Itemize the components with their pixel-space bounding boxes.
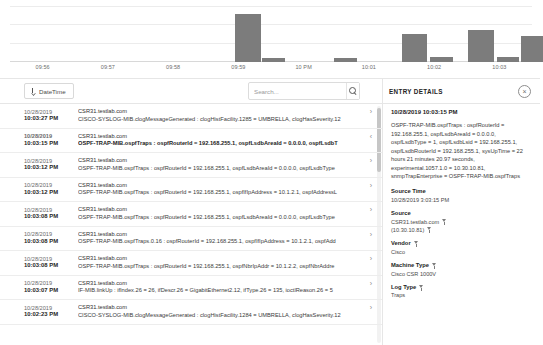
log-row-timestamp: 10/28/201910:03:12 PM bbox=[24, 159, 74, 172]
x-axis-tick-label: 09:59 bbox=[231, 64, 245, 70]
entry-field-value: Cisco bbox=[391, 248, 530, 256]
entry-field: Source Time10/28/2019 3:03:15 PM bbox=[391, 188, 530, 204]
entry-field: VendorCisco bbox=[391, 240, 530, 256]
log-row-message: OSPF-TRAP-MIB.ospfTraps : ospfRouterId =… bbox=[78, 166, 382, 172]
log-row[interactable]: 10/28/201910:03:08 PMCSR31.testlab.comOS… bbox=[0, 202, 382, 227]
chart-bar[interactable] bbox=[468, 30, 494, 62]
entry-field-list: Source Time10/28/2019 3:03:15 PMSourceCS… bbox=[391, 188, 530, 300]
log-row-content: CSR31.testlab.comOSPF-TRAP-MIB.ospfTraps… bbox=[74, 183, 382, 196]
log-row[interactable]: 10/28/201910:03:27 PMCSR31.testlab.comCI… bbox=[0, 104, 382, 129]
log-row-timestamp: 10/28/201910:03:15 PM bbox=[24, 134, 74, 147]
log-row-source: CSR31.testlab.com bbox=[78, 281, 382, 287]
filter-icon[interactable] bbox=[427, 227, 432, 233]
entry-field: Log TypeTraps bbox=[391, 284, 530, 300]
entry-field-value: Cisco CSR 1000V bbox=[391, 270, 530, 278]
x-axis-tick-label: 09:56 bbox=[35, 64, 49, 70]
filter-icon[interactable] bbox=[442, 219, 447, 225]
entry-details-title: ENTRY DETAILS bbox=[389, 88, 443, 95]
toolbar: DateTime ENTRY DETAILS × bbox=[0, 78, 540, 104]
log-row-message: OSPF-TRAP-MIB.ospfTraps.0.16 : ospfRoute… bbox=[78, 239, 382, 245]
log-row[interactable]: 10/28/201910:03:07 PMCSR31.testlab.comIF… bbox=[0, 276, 382, 301]
chart-bar[interactable] bbox=[430, 57, 453, 62]
entry-field-value-secondary-text: (10.30.10.81) bbox=[391, 226, 424, 234]
log-row[interactable]: 10/28/201910:02:23 PMCSR31.testlab.comCI… bbox=[0, 300, 382, 325]
log-row-time: 10:02:23 PM bbox=[24, 312, 74, 318]
sort-datetime-label: DateTime bbox=[39, 88, 66, 95]
log-row-message: CISCO-SYSLOG-MIB.clogMessageGenerated : … bbox=[78, 117, 382, 123]
log-row[interactable]: 10/28/201910:03:08 PMCSR31.testlab.comOS… bbox=[0, 251, 382, 276]
entry-field-label: Vendor bbox=[391, 240, 530, 248]
chart-bar[interactable] bbox=[402, 34, 428, 62]
chevron-right-icon[interactable]: › bbox=[370, 304, 372, 311]
log-row[interactable]: 10/28/201910:03:15 PMCSR31.testlab.comOS… bbox=[0, 129, 382, 154]
log-row-content: CSR31.testlab.comCISCO-SYSLOG-MIB.clogMe… bbox=[74, 305, 382, 318]
entry-field-value-text: 10/28/2019 3:03:15 PM bbox=[391, 196, 449, 204]
chevron-right-icon[interactable]: › bbox=[370, 108, 372, 115]
log-row-timestamp: 10/28/201910:03:08 PM bbox=[24, 208, 74, 221]
log-row-time: 10:03:08 PM bbox=[24, 263, 74, 269]
log-entry-list[interactable]: 10/28/201910:03:27 PMCSR31.testlab.comCI… bbox=[0, 104, 382, 345]
log-row-timestamp: 10/28/201910:03:27 PM bbox=[24, 110, 74, 123]
log-row-date: 10/28/2019 bbox=[24, 281, 74, 287]
chevron-right-icon[interactable]: › bbox=[370, 182, 372, 189]
log-row-content: CSR31.testlab.comOSPF-TRAP-MIB.ospfTraps… bbox=[74, 134, 382, 147]
log-row[interactable]: 10/28/201910:03:12 PMCSR31.testlab.comOS… bbox=[0, 153, 382, 178]
log-row-time: 10:03:07 PM bbox=[24, 288, 74, 294]
log-row-time: 10:03:12 PM bbox=[24, 165, 74, 171]
chevron-right-icon[interactable]: › bbox=[370, 231, 372, 238]
log-row-source: CSR31.testlab.com bbox=[78, 109, 382, 115]
log-row-source: CSR31.testlab.com bbox=[78, 158, 382, 164]
x-axis-tick-label: 10:03 bbox=[492, 64, 506, 70]
chart-bars bbox=[10, 6, 532, 62]
chart-bar[interactable] bbox=[262, 58, 285, 62]
log-row-time: 10:03:27 PM bbox=[24, 116, 74, 122]
search-input[interactable] bbox=[249, 84, 346, 98]
chart-plot-area bbox=[10, 6, 532, 62]
entry-field-label: Source bbox=[391, 210, 530, 218]
chart-bar[interactable] bbox=[235, 14, 261, 62]
filter-icon[interactable] bbox=[414, 241, 419, 247]
x-axis-tick-label: 10:02 bbox=[427, 64, 441, 70]
close-icon[interactable]: × bbox=[518, 85, 531, 98]
log-row-source: CSR31.testlab.com bbox=[78, 134, 382, 140]
entry-message: OSPF-TRAP-MIB.ospfTraps : ospfRouterId =… bbox=[391, 121, 530, 181]
log-row[interactable]: 10/28/201910:03:12 PMCSR31.testlab.comOS… bbox=[0, 178, 382, 203]
log-row-source: CSR31.testlab.com bbox=[78, 207, 382, 213]
chevron-right-icon[interactable]: › bbox=[370, 280, 372, 287]
entry-field-label-text: Source bbox=[391, 210, 411, 218]
chevron-right-icon[interactable]: › bbox=[370, 206, 372, 213]
chevron-right-icon[interactable]: › bbox=[370, 157, 372, 164]
x-axis-tick-label: 09:57 bbox=[101, 64, 115, 70]
entry-field-label: Source Time bbox=[391, 188, 530, 196]
log-row-time: 10:03:08 PM bbox=[24, 214, 74, 220]
chart-bar[interactable] bbox=[334, 58, 357, 62]
search-button[interactable] bbox=[346, 83, 359, 99]
content-area: 10/28/201910:03:27 PMCSR31.testlab.comCI… bbox=[0, 104, 540, 345]
entry-field-value: 10/28/2019 3:03:15 PM bbox=[391, 196, 530, 204]
x-axis-tick-label: 09:58 bbox=[166, 64, 180, 70]
log-row[interactable]: 10/28/201910:03:08 PMCSR31.testlab.comOS… bbox=[0, 227, 382, 252]
chart-bar[interactable] bbox=[521, 36, 543, 62]
entry-field-label-text: Log Type bbox=[391, 284, 416, 292]
log-row-date: 10/28/2019 bbox=[24, 134, 74, 140]
entry-field-value-text: CSR31.testlab.com bbox=[391, 218, 439, 226]
timeline-histogram[interactable]: 09:5609:5709:5809:5910 PM10:0110:0210:03 bbox=[0, 0, 540, 78]
log-row-source: CSR31.testlab.com bbox=[78, 305, 382, 311]
x-axis-tick-label: 10:01 bbox=[362, 64, 376, 70]
chart-bar[interactable] bbox=[497, 57, 520, 62]
entry-field-label-text: Vendor bbox=[391, 240, 411, 248]
sort-datetime-button[interactable]: DateTime bbox=[24, 83, 74, 99]
log-row-date: 10/28/2019 bbox=[24, 183, 74, 189]
filter-icon[interactable] bbox=[419, 285, 424, 291]
filter-icon[interactable] bbox=[432, 263, 437, 269]
log-row-timestamp: 10/28/201910:03:08 PM bbox=[24, 232, 74, 245]
chevron-left-icon[interactable]: ‹ bbox=[370, 133, 372, 140]
search-box[interactable] bbox=[248, 82, 360, 100]
entry-field-value: CSR31.testlab.com bbox=[391, 218, 530, 226]
log-row-message: IF-MIB.linkUp : ifIndex.26 = 26, ifDescr… bbox=[78, 288, 382, 294]
log-row-content: CSR31.testlab.comOSPF-TRAP-MIB.ospfTraps… bbox=[74, 232, 382, 245]
log-row-content: CSR31.testlab.comCISCO-SYSLOG-MIB.clogMe… bbox=[74, 109, 382, 122]
chevron-right-icon[interactable]: › bbox=[370, 255, 372, 262]
entry-details-panel: 10/28/2019 10:03:15 PM OSPF-TRAP-MIB.osp… bbox=[382, 104, 540, 345]
